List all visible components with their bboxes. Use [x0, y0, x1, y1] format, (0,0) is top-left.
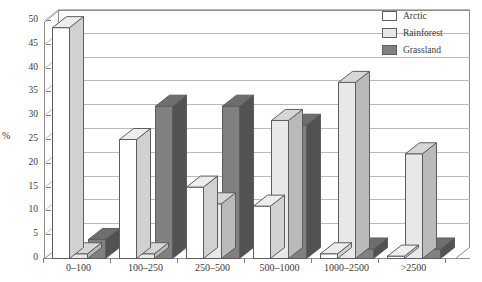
y-tick-label: 25 [12, 134, 38, 144]
legend-label: Arctic [403, 11, 427, 21]
legend-item-grassland[interactable]: Grassland [382, 42, 443, 57]
legend-label: Grassland [403, 45, 441, 55]
bar-chart: % 05101520253035404550 0–100100–250250–5… [0, 0, 482, 282]
y-tick-label: 10 [12, 205, 38, 215]
x-tick-label: 250–500 [176, 262, 249, 273]
y-tick-label: 50 [12, 15, 38, 25]
y-tick-label: 40 [12, 63, 38, 73]
legend-swatch-rainforest [382, 28, 397, 38]
x-tick-mark [43, 258, 44, 263]
y-tick-label: 30 [12, 110, 38, 120]
y-tick-label: 0 [12, 253, 38, 263]
y-tick-label: 45 [12, 39, 38, 49]
y-axis: 05101520253035404550 [8, 0, 38, 282]
legend-item-arctic[interactable]: Arctic [382, 8, 443, 23]
x-tick-label: >2500 [377, 262, 450, 273]
y-tick-label: 35 [12, 86, 38, 96]
x-tick-mark [311, 258, 312, 263]
x-tick-mark [445, 258, 446, 263]
legend-item-rainforest[interactable]: Rainforest [382, 25, 443, 40]
legend-swatch-grassland [382, 45, 397, 55]
y-tick-label: 15 [12, 182, 38, 192]
legend: ArcticRainforestGrassland [382, 8, 443, 59]
x-tick-label: 500–1000 [243, 262, 316, 273]
x-tick-mark [378, 258, 379, 263]
x-tick-mark [177, 258, 178, 263]
y-tick-label: 5 [12, 229, 38, 239]
x-tick-label: 1000–2500 [310, 262, 383, 273]
y-tick-label: 20 [12, 158, 38, 168]
x-tick-mark [244, 258, 245, 263]
legend-label: Rainforest [403, 28, 443, 38]
x-tick-label: 100–250 [109, 262, 182, 273]
x-tick-label: 0–100 [42, 262, 115, 273]
x-tick-mark [110, 258, 111, 263]
legend-swatch-arctic [382, 11, 397, 21]
